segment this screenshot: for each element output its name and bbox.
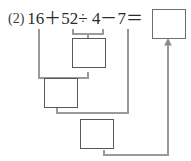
divide-bracket-line [73,29,103,34]
answer-arrowhead [164,38,172,46]
worksheet-problem-diagram: (2)16＋52÷ 4－7＝ [0,0,191,161]
equation-text: (2)16＋52÷ 4－7＝ [8,9,143,28]
problem-number: (2) [8,11,24,26]
step-1-box[interactable] [72,38,106,68]
step-2-box[interactable] [44,78,78,108]
expression: 16＋52÷ 4－7＝ [27,9,143,28]
answer-box[interactable] [152,9,186,39]
step-3-box[interactable] [80,119,114,149]
